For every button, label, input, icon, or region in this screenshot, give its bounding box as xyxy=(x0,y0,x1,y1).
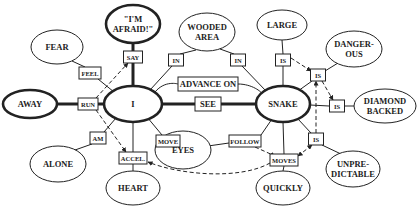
relation-label: ACCEL. xyxy=(121,155,146,162)
relation-is_danger: IS xyxy=(311,69,326,81)
relation-label: FEEL xyxy=(82,70,100,77)
relation-label: IS xyxy=(313,136,320,143)
relation-am: AM xyxy=(90,132,106,144)
relation-feel: FEEL xyxy=(79,67,101,79)
concept-label: WOODED xyxy=(187,22,227,32)
concept-alone: ALONE xyxy=(30,146,86,182)
relation-label: IN xyxy=(234,57,242,64)
relation-label: SEE xyxy=(200,99,216,109)
relation-label: MOVE xyxy=(158,138,178,145)
concept-fear: FEAR xyxy=(31,30,83,64)
concept-diamond: DIAMONDBACKED xyxy=(354,89,416,123)
relation-label: IS xyxy=(334,103,341,110)
relation-say: SAY xyxy=(124,51,143,63)
concept-label: AREA xyxy=(195,32,220,42)
relation-label: IS xyxy=(280,57,287,64)
relation-is_unpred: IS xyxy=(309,133,324,145)
relation-label: IS xyxy=(315,72,322,79)
relation-in1: IN xyxy=(169,54,184,66)
concept-label: "I'M xyxy=(124,14,142,24)
relation-in2: IN xyxy=(231,54,246,66)
relation-moves: MOVES xyxy=(270,154,298,166)
concept-heart: HEART xyxy=(106,171,160,205)
concept-label: AFRAID!" xyxy=(113,24,154,34)
relation-accel: ACCEL. xyxy=(119,152,147,164)
concept-label: ALONE xyxy=(43,159,74,169)
concept-large: LARGE xyxy=(257,10,307,40)
relation-label: MOVES xyxy=(272,157,296,164)
concept-label: DIAMOND xyxy=(364,96,407,106)
relation-see: SEE xyxy=(195,97,221,111)
concept-dangerous: DANGER-OUS xyxy=(326,31,382,67)
relation-move: MOVE xyxy=(156,135,180,147)
concept-i: I xyxy=(104,86,162,122)
concept-label: LARGE xyxy=(267,20,298,30)
relation-follow: FOLLOW xyxy=(229,135,261,147)
concept-quickly: QUICKLY xyxy=(256,171,310,205)
relation-label: RUN xyxy=(81,101,95,108)
concept-label: BACKED xyxy=(367,106,403,116)
concept-unpredictable: UNPRE-DICTABLE xyxy=(326,151,380,187)
relation-is_diamond: IS xyxy=(330,100,345,112)
concept-label: DICTABLE xyxy=(331,169,375,179)
concept-label: OUS xyxy=(345,49,363,59)
concept-label: AWAY xyxy=(18,99,42,109)
concept-label: QUICKLY xyxy=(263,183,303,193)
concept-label: FEAR xyxy=(45,42,69,52)
concept-snake: SNAKE xyxy=(256,86,310,122)
concept-afraid: "I'MAFRAID!" xyxy=(106,5,160,43)
concept-label: UNPRE- xyxy=(337,159,369,169)
concept-label: HEART xyxy=(118,183,148,193)
concept-wooded: WOODEDAREA xyxy=(179,13,235,51)
concept-away: AWAY xyxy=(3,90,57,118)
relation-label: AM xyxy=(93,135,104,142)
concept-label: SNAKE xyxy=(268,99,298,109)
relation-label: FOLLOW xyxy=(230,138,260,145)
relation-label: IN xyxy=(172,57,180,64)
relation-advance: ADVANCE ON xyxy=(178,77,238,91)
relation-run: RUN xyxy=(78,98,98,110)
relation-label: ADVANCE ON xyxy=(180,79,237,89)
relation-is_large: IS xyxy=(276,54,291,66)
concept-label: DANGER- xyxy=(334,39,374,49)
relation-label: SAY xyxy=(127,54,140,61)
conceptual-graph-diagram: FEAR"I'MAFRAID!"WOODEDAREALARGEDANGER-OU… xyxy=(0,0,419,213)
